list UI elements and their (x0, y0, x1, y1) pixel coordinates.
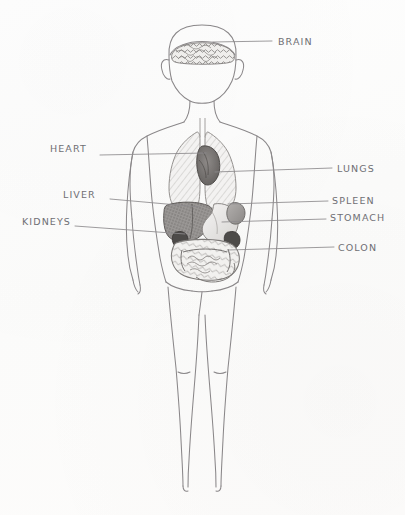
leader-line-colon (228, 247, 334, 250)
organ-heart (197, 146, 220, 185)
organ-spleen (227, 203, 245, 225)
leader-line-brain (213, 41, 272, 42)
label-heart: HEART (50, 143, 87, 154)
organ-lung-left (169, 132, 200, 213)
organ-colon (171, 239, 239, 282)
label-liver: LIVER (63, 189, 96, 200)
leader-line-spleen (228, 201, 328, 204)
label-stomach: STOMACH (330, 212, 385, 223)
label-lungs: LUNGS (337, 163, 375, 174)
label-brain: BRAIN (278, 36, 313, 47)
anatomy-drawing (0, 0, 405, 515)
label-spleen: SPLEEN (332, 195, 375, 206)
label-kidneys: KIDNEYS (22, 216, 71, 227)
anatomy-diagram-page: BRAIN HEART LUNGS LIVER SPLEEN KIDNEYS S… (0, 0, 405, 515)
label-colon: COLON (338, 242, 377, 253)
